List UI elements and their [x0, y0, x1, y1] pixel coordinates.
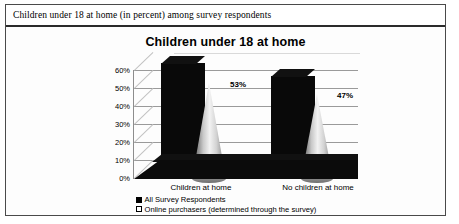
y-tick-30: 30% — [104, 121, 130, 129]
hollow-square-icon — [136, 206, 142, 212]
depth-line-60 — [134, 52, 153, 71]
filled-square-icon — [136, 197, 142, 203]
y-axis-line — [133, 70, 134, 179]
caption-text: Children under 18 at home (in percent) a… — [6, 10, 271, 20]
data-label-no-children-at-home: 47% — [337, 91, 353, 100]
y-tick-60: 60% — [104, 67, 130, 75]
depth-line-10 — [134, 142, 153, 161]
table-caption-row: Children under 18 at home (in percent) a… — [6, 5, 445, 27]
depth-line-20 — [134, 124, 153, 143]
y-axis: 60% 50% 40% 30% 20% 10% 0% — [98, 27, 130, 215]
bar-top-face — [161, 56, 205, 64]
legend-item-all-survey-respondents: All Survey Respondents — [136, 195, 316, 205]
legend-label-online-purchasers: Online purchasers (determined through th… — [145, 205, 317, 215]
y-tick-20: 20% — [104, 139, 130, 147]
y-tick-50: 50% — [104, 85, 130, 93]
legend-item-online-purchasers: Online purchasers (determined through th… — [136, 205, 316, 215]
floor-slab — [134, 160, 358, 179]
depth-line-50 — [134, 70, 153, 89]
depth-line-40 — [134, 88, 153, 107]
chart-panel: Children under 18 at home 60% 50% 4 — [6, 27, 445, 215]
depth-line-30 — [134, 106, 153, 125]
y-tick-40: 40% — [104, 103, 130, 111]
data-label-children-at-home: 53% — [230, 80, 246, 89]
y-tick-10: 10% — [104, 157, 130, 165]
x-tick-no-children-at-home: No children at home — [254, 183, 382, 192]
plot-area: 60% 50% 40% 30% 20% 10% 0% 53% — [6, 27, 445, 215]
x-tick-children-at-home: Children at home — [146, 183, 256, 192]
document-frame: Children under 18 at home (in percent) a… — [5, 4, 446, 216]
legend-label-all-survey-respondents: All Survey Respondents — [145, 195, 226, 205]
y-tick-0: 0% — [104, 175, 130, 183]
chart-legend: All Survey Respondents Online purchasers… — [136, 195, 316, 214]
